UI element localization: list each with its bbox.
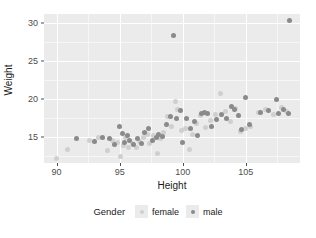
data-point-female (118, 154, 123, 159)
data-point-male (139, 141, 144, 146)
x-axis-title: Height (44, 180, 300, 192)
data-point-male (258, 110, 263, 115)
data-point-male (205, 111, 210, 116)
legend-key-female (135, 205, 148, 218)
gridline-major-horizontal (44, 99, 300, 100)
data-point-female (65, 147, 70, 152)
legend-label-female: female (152, 207, 179, 217)
data-point-male (287, 18, 292, 23)
legend-marker-icon (140, 210, 144, 214)
data-point-male (232, 107, 237, 112)
y-tick-label: 30 (28, 19, 38, 28)
data-point-male (178, 108, 183, 113)
data-point-male (266, 108, 271, 113)
gridline-major-horizontal (44, 23, 300, 24)
x-tick-label: 100 (175, 168, 190, 177)
data-point-male (92, 139, 97, 144)
data-point-female (105, 148, 110, 153)
y-tick-mark (41, 61, 44, 62)
data-point-male (160, 134, 165, 139)
gridline-major-vertical (57, 14, 58, 163)
y-tick-mark (41, 99, 44, 100)
gridline-minor-vertical (214, 14, 215, 163)
data-point-male (117, 124, 122, 129)
y-tick-mark (41, 23, 44, 24)
gridline-minor-horizontal (44, 80, 300, 81)
x-tick-label: 90 (52, 168, 62, 177)
x-tick-mark (57, 163, 58, 166)
data-point-female (54, 156, 59, 161)
gridline-minor-horizontal (44, 42, 300, 43)
y-tick-label: 15 (28, 133, 38, 142)
data-point-male (120, 131, 125, 136)
legend-title: Gender (93, 206, 125, 217)
y-tick-label: 20 (28, 95, 38, 104)
data-point-male (135, 136, 140, 141)
legend-entry-male[interactable]: male (186, 205, 223, 218)
gridline-major-vertical (120, 14, 121, 163)
data-point-male (188, 126, 193, 131)
y-tick-mark (41, 137, 44, 138)
data-point-female (208, 118, 213, 123)
data-point-male (112, 142, 117, 147)
data-point-female (228, 119, 233, 124)
data-point-male (171, 33, 176, 38)
gridline-major-vertical (246, 14, 247, 163)
legend-entry-female[interactable]: female (135, 205, 179, 218)
x-tick-mark (183, 163, 184, 166)
legend: Gender female male (0, 205, 316, 218)
x-tick-label: 105 (238, 168, 253, 177)
data-point-male (276, 111, 281, 116)
gridline-major-horizontal (44, 61, 300, 62)
data-point-female (169, 124, 174, 129)
data-point-male (168, 114, 173, 119)
data-point-female (187, 147, 192, 152)
data-point-male (184, 116, 189, 121)
plot-panel (44, 14, 300, 163)
data-point-male (180, 140, 185, 145)
data-point-female (173, 99, 178, 104)
data-point-female (218, 91, 223, 96)
gridline-minor-vertical (277, 14, 278, 163)
x-tick-mark (246, 163, 247, 166)
data-point-female (183, 126, 188, 131)
y-axis-ticks: 15202530 (0, 14, 38, 163)
gridline-major-horizontal (44, 137, 300, 138)
data-point-male (74, 136, 79, 141)
y-tick-label: 25 (28, 57, 38, 66)
data-point-male (174, 116, 179, 121)
data-point-male (239, 127, 244, 132)
legend-key-male (186, 205, 199, 218)
data-point-female (203, 125, 208, 130)
x-tick-mark (120, 163, 121, 166)
x-tick-label: 95 (115, 168, 125, 177)
data-point-female (213, 112, 218, 117)
gridline-minor-horizontal (44, 156, 300, 157)
legend-label-male: male (203, 207, 223, 217)
legend-marker-icon (191, 210, 195, 214)
data-point-male (100, 135, 105, 140)
data-point-male (286, 111, 291, 116)
data-point-male (214, 117, 219, 122)
data-point-male (274, 97, 279, 102)
chart-root: Weight 15202530 9095100105 Height Gender… (0, 0, 316, 238)
